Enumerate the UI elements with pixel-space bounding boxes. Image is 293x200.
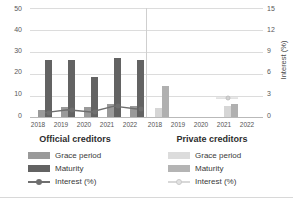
- legend-label-maturity-official: Maturity: [55, 164, 83, 173]
- interest-marker-official-2022: [138, 106, 143, 111]
- y-tick-left-30: 30: [2, 47, 22, 54]
- legend-item-interest-private[interactable]: Interest (%): [140, 175, 286, 188]
- y-tick-left-10: 10: [2, 90, 22, 97]
- legend-swatch-grace-private: [168, 152, 190, 159]
- y-tick-right-3: 3: [267, 90, 289, 97]
- interest-marker-official-2021: [115, 104, 120, 109]
- legend-item-grace-official[interactable]: Grace period: [0, 149, 146, 162]
- legend-item-interest-official[interactable]: Interest (%): [0, 175, 146, 188]
- panel-title-official: Official creditors: [10, 134, 140, 144]
- legend-swatch-interest-official: [28, 178, 50, 185]
- interest-line-layer: [30, 8, 263, 117]
- y-tick-left-0: 0: [2, 112, 22, 119]
- interest-marker-official-2018: [46, 110, 51, 115]
- y-tick-right-0: 0: [267, 112, 289, 119]
- legend-official: Grace period Maturity Interest (%): [0, 149, 146, 188]
- y-tick-left-50: 50: [2, 5, 22, 12]
- legend-label-grace-official: Grace period: [55, 151, 101, 160]
- legend-private: Grace period Maturity Interest (%): [140, 149, 286, 188]
- chart-container: Years Interest (%) 50 40 30 20 10 0 15 1…: [0, 0, 293, 200]
- interest-marker-private-2021: [226, 95, 231, 100]
- y-tick-left-40: 40: [2, 26, 22, 33]
- legend-swatch-maturity-official: [28, 165, 50, 172]
- plot-canvas: [30, 8, 263, 118]
- panel-title-private: Private creditors: [147, 134, 277, 144]
- legend-swatch-interest-private: [168, 178, 190, 185]
- legend-item-maturity-private[interactable]: Maturity: [140, 162, 286, 175]
- interest-marker-official-2019: [69, 107, 74, 112]
- y-tick-right-12: 12: [267, 26, 289, 33]
- interest-line-official: [45, 106, 137, 113]
- legend-item-maturity-official[interactable]: Maturity: [0, 162, 146, 175]
- x-tick-official-2022: 2022: [117, 121, 143, 128]
- footer-divider: [0, 197, 293, 198]
- legend-label-grace-private: Grace period: [195, 151, 241, 160]
- y-tick-left-20: 20: [2, 68, 22, 75]
- legend-swatch-maturity-private: [168, 165, 190, 172]
- legend-label-interest-private: Interest (%): [195, 177, 236, 186]
- legend-label-interest-official: Interest (%): [55, 177, 96, 186]
- x-tick-private-2022: 2022: [234, 121, 260, 128]
- y-tick-right-6: 6: [267, 68, 289, 75]
- y-tick-right-15: 15: [267, 5, 289, 12]
- y-tick-right-9: 9: [267, 47, 289, 54]
- legend-label-maturity-private: Maturity: [195, 164, 223, 173]
- legend-item-grace-private[interactable]: Grace period: [140, 149, 286, 162]
- legend-swatch-grace-official: [28, 152, 50, 159]
- plot-area: Years Interest (%) 50 40 30 20 10 0 15 1…: [0, 0, 293, 132]
- interest-marker-official-2020: [92, 109, 97, 114]
